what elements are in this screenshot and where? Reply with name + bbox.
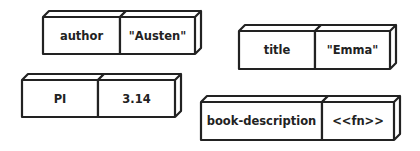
key-label: title: [264, 43, 291, 57]
key-label: book-description: [207, 114, 317, 128]
value-box: <<fn>>: [322, 96, 400, 140]
key-box: title: [239, 25, 321, 69]
diagram-canvas: author "Austen" title "Emma" PI 3.14 boo…: [0, 0, 420, 151]
value-box: 3.14: [98, 74, 181, 117]
key-label: author: [60, 29, 104, 43]
key-box: PI: [22, 74, 104, 117]
value-label: "Emma": [327, 43, 379, 57]
pair-author: author "Austen": [43, 11, 201, 54]
value-label: <<fn>>: [332, 114, 384, 128]
pair-book-description: book-description <<fn>>: [201, 96, 400, 140]
key-label: PI: [54, 92, 67, 106]
value-box: "Austen": [120, 11, 201, 54]
pair-title: title "Emma": [239, 25, 396, 69]
value-box: "Emma": [315, 25, 396, 69]
pair-pi: PI 3.14: [22, 74, 181, 117]
key-box: author: [43, 11, 126, 54]
value-label: "Austen": [129, 29, 186, 43]
value-label: 3.14: [122, 92, 150, 106]
key-box: book-description: [201, 96, 328, 140]
